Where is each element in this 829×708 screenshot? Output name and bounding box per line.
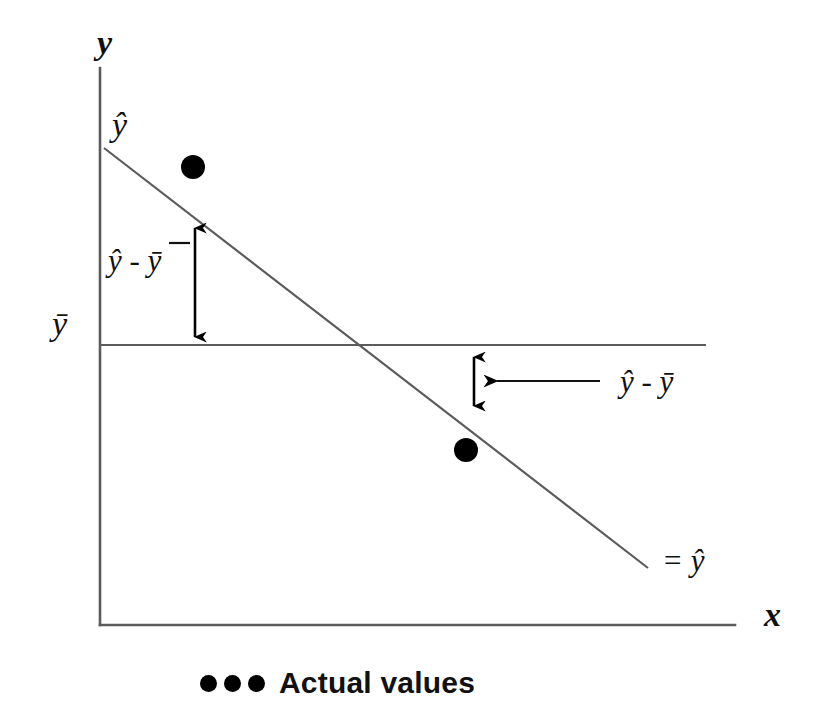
legend: Actual values bbox=[200, 666, 475, 700]
mean-line-label: ȳ bbox=[52, 307, 67, 341]
deviation-label-right: ŷ - ȳ bbox=[620, 366, 673, 397]
deviation-label-left: ŷ - ȳ bbox=[108, 245, 161, 276]
legend-dot-icon bbox=[224, 675, 241, 692]
y-axis-label: y bbox=[97, 26, 112, 60]
data-point bbox=[181, 155, 205, 179]
intercept-label: ŷ bbox=[112, 108, 127, 142]
legend-marker-group bbox=[200, 675, 265, 692]
data-point bbox=[454, 438, 478, 462]
regression-deviation-figure: y x ŷ ȳ ŷ - ȳ ŷ - ȳ = ŷ Actual values bbox=[0, 0, 829, 708]
x-axis-label: x bbox=[764, 598, 781, 632]
legend-label: Actual values bbox=[279, 666, 475, 700]
legend-dot-icon bbox=[248, 675, 265, 692]
regression-line-tag: = ŷ bbox=[662, 545, 704, 576]
legend-dot-icon bbox=[200, 675, 217, 692]
regression-line bbox=[104, 148, 648, 568]
